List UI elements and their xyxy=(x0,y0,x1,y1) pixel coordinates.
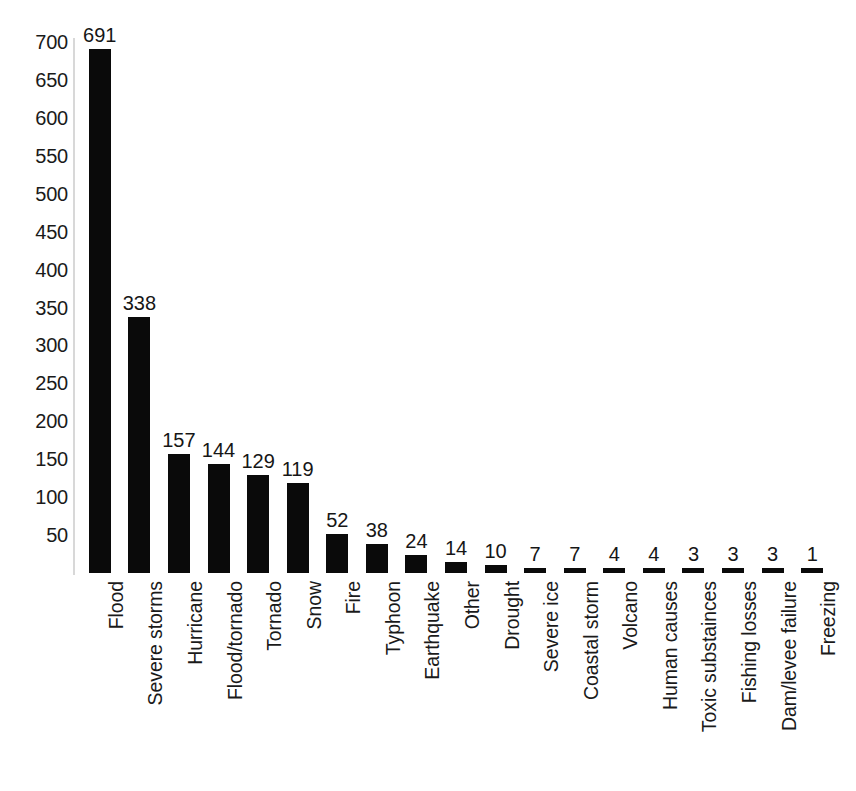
bar-group[interactable]: 119 xyxy=(287,0,309,573)
bar-value-label: 3 xyxy=(727,544,738,565)
bar-group[interactable]: 4 xyxy=(603,0,625,573)
bar[interactable] xyxy=(168,454,190,573)
x-axis-category-label: Toxic substainces xyxy=(700,581,720,732)
bar[interactable] xyxy=(485,565,507,573)
bar-value-label: 7 xyxy=(530,544,541,565)
x-axis-category-label: Volcano xyxy=(621,581,641,650)
bar-value-label: 24 xyxy=(405,531,427,552)
bar-group[interactable]: 3 xyxy=(722,0,744,573)
bar[interactable] xyxy=(524,568,546,573)
bar-group[interactable]: 10 xyxy=(485,0,507,573)
bar-chart: 5010015020025030035040045050055060065070… xyxy=(0,0,856,791)
bar-group[interactable]: 14 xyxy=(445,0,467,573)
bar-group[interactable]: 7 xyxy=(564,0,586,573)
plot-area: 5010015020025030035040045050055060065070… xyxy=(0,0,856,573)
bar-value-label: 129 xyxy=(241,451,274,472)
bar[interactable] xyxy=(405,555,427,573)
bar-group[interactable]: 7 xyxy=(524,0,546,573)
x-axis-category-label: Hurricane xyxy=(186,581,206,665)
bar[interactable] xyxy=(247,475,269,573)
bar-value-label: 3 xyxy=(688,544,699,565)
x-axis-category-label: Dam/levee failure xyxy=(780,581,800,731)
bar-group[interactable]: 3 xyxy=(682,0,704,573)
bar[interactable] xyxy=(287,483,309,573)
x-axis-category-label: Typhoon xyxy=(384,581,404,655)
bar-group[interactable]: 1 xyxy=(801,0,823,573)
x-axis-category-label: Flood xyxy=(107,581,127,629)
bar-value-label: 4 xyxy=(609,544,620,565)
x-axis-category-label: Flood/tornado xyxy=(226,581,246,700)
bar-group[interactable]: 38 xyxy=(366,0,388,573)
bar[interactable] xyxy=(564,568,586,573)
bar[interactable] xyxy=(682,568,704,573)
bar[interactable] xyxy=(603,568,625,573)
x-axis-category-label: Fire xyxy=(344,581,364,614)
bar-value-label: 3 xyxy=(767,544,778,565)
x-axis-category-label: Earthquake xyxy=(423,581,443,680)
bar[interactable] xyxy=(643,568,665,573)
bar[interactable] xyxy=(762,568,784,573)
x-axis-category-label: Coastal storm xyxy=(582,581,602,700)
x-axis-category-label: Freezing xyxy=(819,581,839,656)
x-axis-category-label: Snow xyxy=(305,581,325,629)
bar-value-label: 691 xyxy=(83,25,116,46)
bar[interactable] xyxy=(801,568,823,573)
bar-group[interactable]: 338 xyxy=(128,0,150,573)
x-axis-category-label: Other xyxy=(463,581,483,629)
bar[interactable] xyxy=(128,317,150,573)
bar-group[interactable]: 4 xyxy=(643,0,665,573)
bar-value-label: 14 xyxy=(445,538,467,559)
bar-value-label: 52 xyxy=(326,510,348,531)
bars-layer: 691338157144129119523824141077443331 xyxy=(0,0,856,573)
bar-group[interactable]: 24 xyxy=(405,0,427,573)
bar-value-label: 38 xyxy=(366,520,388,541)
x-axis-category-label: Tornado xyxy=(265,581,285,651)
bar[interactable] xyxy=(208,464,230,573)
x-axis-category-label: Fishing losses xyxy=(740,581,760,703)
bar-value-label: 1 xyxy=(807,544,818,565)
bar-group[interactable]: 3 xyxy=(762,0,784,573)
bar-group[interactable]: 52 xyxy=(326,0,348,573)
bar-group[interactable]: 691 xyxy=(89,0,111,573)
bar[interactable] xyxy=(366,544,388,573)
bar[interactable] xyxy=(722,568,744,573)
x-axis-category-label: Drought xyxy=(503,581,523,650)
bar-value-label: 144 xyxy=(202,440,235,461)
x-axis-category-label: Severe storms xyxy=(146,581,166,705)
bar-value-label: 7 xyxy=(569,544,580,565)
x-axis-category-label: Severe ice xyxy=(542,581,562,672)
bar-group[interactable]: 157 xyxy=(168,0,190,573)
x-axis-category-labels: FloodSevere stormsHurricaneFlood/tornado… xyxy=(0,575,856,775)
bar-value-label: 338 xyxy=(123,293,156,314)
bar-group[interactable]: 129 xyxy=(247,0,269,573)
bar-value-label: 4 xyxy=(648,544,659,565)
bar-value-label: 10 xyxy=(484,541,506,562)
bar-value-label: 157 xyxy=(162,430,195,451)
bar-group[interactable]: 144 xyxy=(208,0,230,573)
x-axis-category-label: Human causes xyxy=(661,581,681,710)
bar[interactable] xyxy=(445,562,467,573)
bar[interactable] xyxy=(326,534,348,573)
bar[interactable] xyxy=(89,49,111,573)
bar-value-label: 119 xyxy=(282,459,314,480)
